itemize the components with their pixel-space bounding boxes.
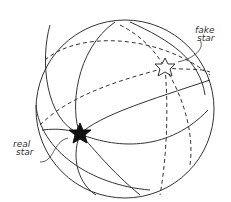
back-arc-2 — [160, 68, 167, 195]
back-arc-6 — [165, 68, 191, 165]
back-arc-1 — [45, 41, 210, 75]
fake-star-icon — [155, 58, 175, 76]
back-arc-4 — [165, 68, 210, 72]
real-star-label: real star — [13, 140, 33, 156]
front-arc-1 — [45, 25, 208, 144]
back-arc-5 — [120, 25, 165, 68]
real-star-leader — [40, 138, 68, 162]
front-arc-7 — [36, 105, 150, 190]
front-arc-2 — [76, 134, 96, 195]
real-star-icon — [69, 123, 91, 143]
fake-star-leader — [178, 40, 201, 62]
front-arc-4 — [80, 134, 140, 195]
real-star-label-line2: star — [13, 148, 33, 156]
front-arc-8 — [130, 22, 205, 95]
fake-star-label-line2: star — [195, 34, 214, 42]
fake-star-label: fake star — [195, 26, 214, 42]
front-arc-3 — [80, 80, 210, 134]
front-arc-5 — [76, 22, 115, 134]
